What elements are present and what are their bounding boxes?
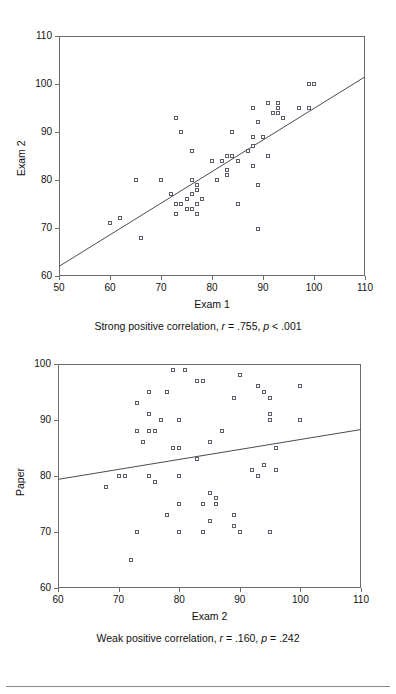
x-tick-label: 110 bbox=[345, 594, 377, 605]
data-point bbox=[271, 111, 275, 115]
x-tick-mark bbox=[361, 588, 362, 592]
data-point bbox=[195, 202, 199, 206]
y-tick-mark bbox=[54, 420, 58, 421]
x-tick-mark bbox=[59, 276, 60, 280]
data-point bbox=[174, 202, 178, 206]
data-point bbox=[256, 120, 260, 124]
y-tick-label: 70 bbox=[19, 222, 52, 233]
data-point bbox=[104, 485, 108, 489]
data-point bbox=[232, 396, 236, 400]
x-tick-mark bbox=[314, 276, 315, 280]
data-point bbox=[123, 474, 127, 478]
data-point bbox=[179, 202, 183, 206]
data-point bbox=[230, 130, 234, 134]
data-point bbox=[165, 390, 169, 394]
data-point bbox=[153, 480, 157, 484]
data-point bbox=[171, 446, 175, 450]
data-point bbox=[117, 474, 121, 478]
x-tick-label: 100 bbox=[284, 594, 316, 605]
data-point bbox=[185, 197, 189, 201]
caption-lead: Strong positive correlation, bbox=[94, 320, 221, 332]
y-tick-label: 90 bbox=[19, 126, 52, 137]
data-point bbox=[108, 221, 112, 225]
x-tick-mark bbox=[58, 588, 59, 592]
data-point bbox=[238, 373, 242, 377]
data-point bbox=[139, 236, 143, 240]
data-point bbox=[214, 502, 218, 506]
data-point bbox=[177, 474, 181, 478]
data-point bbox=[210, 159, 214, 163]
caption-r-value: = .160, bbox=[223, 632, 261, 644]
x-tick-mark bbox=[212, 276, 213, 280]
y-tick-label: 100 bbox=[19, 78, 52, 89]
data-point bbox=[190, 192, 194, 196]
data-point bbox=[195, 183, 199, 187]
data-point bbox=[215, 178, 219, 182]
data-point bbox=[147, 412, 151, 416]
x-tick-mark bbox=[300, 588, 301, 592]
data-point bbox=[153, 429, 157, 433]
page-divider-rule bbox=[6, 686, 390, 687]
data-point bbox=[281, 116, 285, 120]
scatter-figure-exam1-exam2: 607080901001105060708090100110 Exam 1 Ex… bbox=[0, 8, 396, 338]
data-point bbox=[220, 429, 224, 433]
data-point bbox=[147, 474, 151, 478]
data-point bbox=[276, 106, 280, 110]
y-tick-mark bbox=[55, 84, 59, 85]
y-tick-mark bbox=[55, 36, 59, 37]
caption-bottom: Weak positive correlation, r = .160, p =… bbox=[0, 632, 396, 644]
data-point bbox=[190, 178, 194, 182]
caption-p-value: < .001 bbox=[269, 320, 301, 332]
data-point bbox=[195, 188, 199, 192]
x-tick-label: 70 bbox=[103, 594, 135, 605]
data-point bbox=[268, 418, 272, 422]
caption-lead: Weak positive correlation, bbox=[97, 632, 220, 644]
data-point bbox=[200, 197, 204, 201]
data-point bbox=[274, 446, 278, 450]
data-point bbox=[135, 401, 139, 405]
y-tick-label: 90 bbox=[18, 414, 51, 425]
data-point bbox=[214, 496, 218, 500]
data-point bbox=[251, 106, 255, 110]
data-point bbox=[190, 149, 194, 153]
data-point bbox=[230, 154, 234, 158]
data-point bbox=[174, 116, 178, 120]
regression-line-bottom bbox=[0, 340, 396, 680]
data-point bbox=[185, 207, 189, 211]
data-point bbox=[147, 429, 151, 433]
data-point bbox=[298, 384, 302, 388]
x-tick-label: 60 bbox=[94, 282, 126, 293]
data-point bbox=[307, 106, 311, 110]
caption-r-value: = .755, bbox=[225, 320, 263, 332]
data-point bbox=[208, 440, 212, 444]
y-axis-title-bottom: Paper bbox=[14, 468, 26, 496]
y-axis-title-top: Exam 2 bbox=[15, 140, 27, 176]
data-point bbox=[165, 513, 169, 517]
plot-area-top: 607080901001105060708090100110 bbox=[0, 8, 396, 338]
data-point bbox=[135, 429, 139, 433]
x-tick-mark bbox=[240, 588, 241, 592]
scatter-figure-exam2-paper: 6070809010060708090100110 Exam 2 Paper W… bbox=[0, 340, 396, 680]
data-point bbox=[236, 159, 240, 163]
data-point bbox=[129, 558, 133, 562]
y-tick-mark bbox=[54, 364, 58, 365]
data-point bbox=[190, 207, 194, 211]
y-tick-mark bbox=[55, 180, 59, 181]
data-point bbox=[251, 144, 255, 148]
data-point bbox=[195, 379, 199, 383]
data-point bbox=[276, 111, 280, 115]
data-point bbox=[266, 154, 270, 158]
y-tick-label: 60 bbox=[18, 582, 51, 593]
data-point bbox=[177, 446, 181, 450]
data-point bbox=[312, 82, 316, 86]
data-point bbox=[159, 418, 163, 422]
caption-p-value: = .242 bbox=[267, 632, 299, 644]
data-point bbox=[307, 82, 311, 86]
data-point bbox=[177, 418, 181, 422]
data-point bbox=[177, 502, 181, 506]
data-point bbox=[262, 463, 266, 467]
y-tick-label: 60 bbox=[19, 270, 52, 281]
data-point bbox=[251, 135, 255, 139]
data-point bbox=[266, 101, 270, 105]
x-axis-title-top: Exam 1 bbox=[59, 298, 365, 310]
